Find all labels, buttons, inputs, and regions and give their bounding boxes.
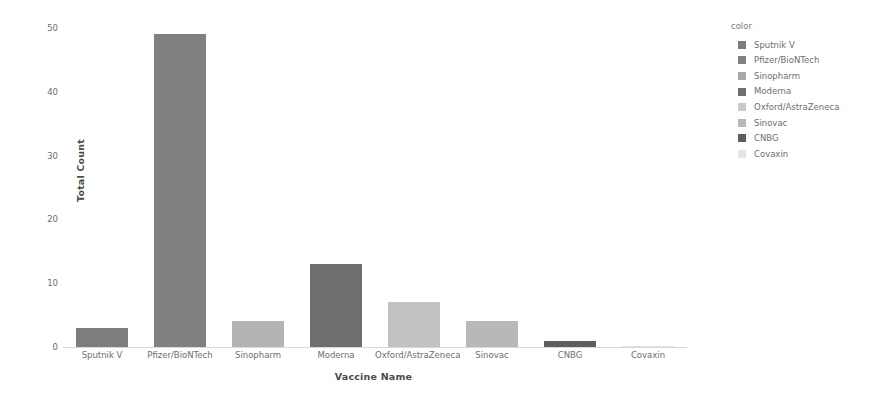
y-axis-ticks: 01020304050 [0,0,58,396]
legend-item-label: CNBG [754,134,779,143]
x-axis-line [63,347,687,348]
y-axis-tick-label: 40 [14,87,58,97]
y-axis-tick-label: 10 [14,278,58,288]
x-axis-tick-label: Covaxin [609,350,687,360]
legend-item-label: Moderna [754,87,791,96]
y-axis-tick-label: 50 [14,23,58,33]
x-axis-tick-label: Pfizer/BioNTech [141,350,219,360]
y-axis-tick-label: 0 [14,342,58,352]
legend-item[interactable]: Sputnik V [731,37,881,53]
bar-chart: Total Count 01020304050 Sputnik VPfizer/… [0,0,884,396]
legend-swatch-icon [738,72,746,80]
legend-item-label: Covaxin [754,150,788,159]
legend-item-label: Oxford/AstraZeneca [754,103,839,112]
legend-item-label: Sinopharm [754,72,800,81]
legend-item[interactable]: Covaxin [731,146,881,162]
bar[interactable] [388,302,439,347]
x-axis-tick-label: Sinovac [453,350,531,360]
x-axis-tick-label: CNBG [531,350,609,360]
y-axis-tick-label: 20 [14,214,58,224]
legend-swatch-icon [738,134,746,142]
legend-item-label: Sputnik V [754,41,795,50]
legend-item[interactable]: CNBG [731,131,881,147]
legend-title: color [731,21,881,31]
legend-item-label: Sinovac [754,119,787,128]
legend-swatch-icon [738,88,746,96]
x-axis-tick-label: Oxford/AstraZeneca [375,350,453,360]
legend-swatch-icon [738,41,746,49]
x-axis-tick-label: Sputnik V [63,350,141,360]
x-axis-tick-label: Sinopharm [219,350,297,360]
legend-item[interactable]: Sinovac [731,115,881,131]
bar[interactable] [232,321,283,347]
bar[interactable] [466,321,517,347]
bar[interactable] [154,34,205,347]
legend-item-label: Pfizer/BioNTech [754,56,819,65]
legend-item[interactable]: Sinopharm [731,68,881,84]
x-axis-title: Vaccine Name [60,371,687,382]
legend-item[interactable]: Oxford/AstraZeneca [731,99,881,115]
y-axis-tick-label: 30 [14,151,58,161]
legend-item[interactable]: Moderna [731,84,881,100]
legend-swatch-icon [738,103,746,111]
legend: color Sputnik VPfizer/BioNTechSinopharmM… [731,21,881,162]
legend-swatch-icon [738,150,746,158]
legend-item[interactable]: Pfizer/BioNTech [731,53,881,69]
legend-swatch-icon [738,119,746,127]
bar[interactable] [76,328,127,347]
plot-area [63,28,687,347]
legend-rows: Sputnik VPfizer/BioNTechSinopharmModerna… [731,37,881,162]
legend-swatch-icon [738,56,746,64]
x-axis-tick-label: Moderna [297,350,375,360]
bar[interactable] [310,264,361,347]
